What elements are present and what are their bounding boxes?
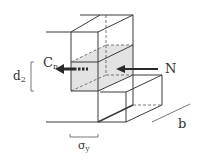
structural-block-diagram: Cn N d2 b σy (0, 0, 207, 161)
cn-label: Cn (43, 55, 58, 71)
d2-label: d2 (13, 69, 26, 84)
diagram-canvas: Cn N d2 b σy (0, 0, 207, 161)
n-label: N (165, 61, 176, 76)
depth-dimension (31, 62, 34, 91)
sigma-y-label: σy (78, 139, 90, 153)
stress-dimension (70, 134, 98, 137)
b-label: b (178, 116, 186, 131)
